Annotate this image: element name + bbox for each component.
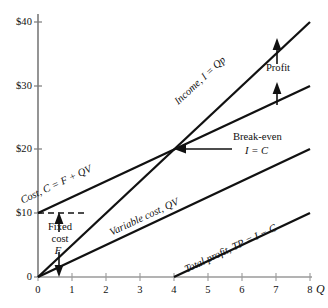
x-tick-label-5: 5: [200, 284, 216, 295]
profit-label: Profit: [258, 62, 298, 73]
fixed-cost-symbol-label: F: [50, 245, 66, 256]
x-tick-label-2: 2: [98, 284, 114, 295]
series-line-cost: [38, 86, 310, 213]
x-tick-label-6: 6: [234, 284, 250, 295]
chart-plot-area: [0, 0, 328, 308]
x-tick-label-1: 1: [64, 284, 80, 295]
y-tick-label-0: 0: [2, 271, 32, 282]
break-even-arrow: [174, 145, 232, 154]
x-tick-label-3: 3: [132, 284, 148, 295]
break-even-label-line1: Break-even: [233, 131, 282, 142]
x-axis-label: Q: [316, 283, 325, 296]
break-even-chart-figure: $40 $30 $20 $10 0 0 1 2 3 4 5 6 7 8 Q In…: [0, 0, 328, 308]
y-tick-label-20: $20: [2, 143, 32, 154]
profit-arrow-lower: [273, 82, 282, 105]
x-tick-label-0: 0: [30, 284, 46, 295]
x-tick-label-4: 4: [166, 284, 182, 295]
fixed-cost-label-line2: cost: [40, 233, 80, 244]
y-tick-label-30: $30: [2, 80, 32, 91]
fixed-cost-label-line1: Fixed: [40, 221, 80, 232]
y-tick-label-10: $10: [2, 207, 32, 218]
x-tick-label-7: 7: [268, 284, 284, 295]
y-tick-label-40: $40: [2, 16, 32, 27]
break-even-label-line2: I = C: [245, 145, 268, 156]
